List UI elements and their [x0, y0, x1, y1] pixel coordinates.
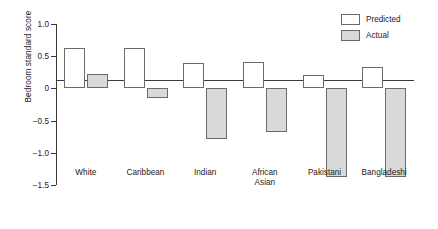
bar-group: [183, 24, 227, 185]
y-tick-label: 1.0: [38, 20, 49, 29]
y-tick-mark: [51, 153, 56, 154]
y-tick-label: −1.0: [33, 148, 49, 157]
legend-label-actual: Actual: [366, 31, 389, 40]
y-tick-mark: [51, 24, 56, 25]
legend-item-predicted: Predicted: [341, 14, 401, 25]
bar-predicted: [124, 48, 145, 89]
bar-predicted: [303, 75, 324, 89]
bar-group: [243, 24, 287, 185]
y-tick-label: 0: [44, 84, 49, 93]
plot-area: 1.00.50−0.5−1.0−1.5: [56, 24, 414, 185]
zero-baseline: [56, 80, 414, 81]
y-tick-mark: [51, 56, 56, 57]
bar-actual: [385, 88, 406, 176]
bar-predicted: [183, 63, 204, 89]
y-tick-mark: [51, 121, 56, 122]
y-tick-label: −0.5: [33, 116, 49, 125]
legend-swatch-predicted-icon: [341, 14, 360, 25]
y-tick-label: 0.5: [38, 52, 49, 61]
bar-chart: Bedroom standard score 1.00.50−0.5−1.0−1…: [0, 0, 438, 229]
bar-group: [303, 24, 347, 185]
legend-label-predicted: Predicted: [366, 15, 401, 24]
bar-actual: [266, 88, 287, 131]
bar-group: [124, 24, 168, 185]
legend: Predicted Actual: [341, 14, 401, 46]
bar-group: [362, 24, 406, 185]
legend-item-actual: Actual: [341, 30, 401, 41]
bar-actual: [147, 88, 168, 98]
bar-group: [64, 24, 108, 185]
y-tick-label: −1.5: [33, 181, 49, 190]
bar-actual: [87, 74, 108, 88]
bar-predicted: [362, 67, 383, 89]
y-tick-mark: [51, 185, 56, 186]
y-tick-mark: [51, 88, 56, 89]
legend-swatch-actual-icon: [341, 30, 360, 41]
y-axis-title: Bedroom standard score: [24, 0, 33, 137]
y-axis-line: [56, 24, 57, 185]
bar-actual: [326, 88, 347, 176]
x-axis-label: Bangladeshi: [344, 168, 424, 178]
bar-actual: [206, 88, 227, 138]
bar-predicted: [64, 48, 85, 89]
bar-predicted: [243, 62, 264, 88]
